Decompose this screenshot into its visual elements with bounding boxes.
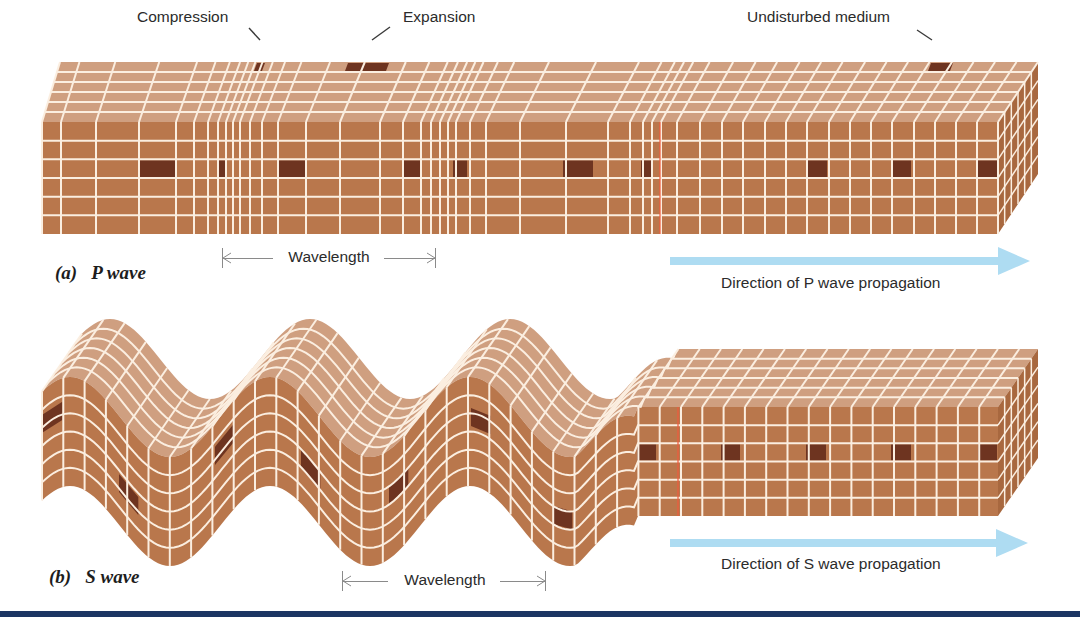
wavelength-right-line: [500, 581, 545, 582]
p-wavelength-marker: Wavelength: [222, 248, 436, 268]
wavelength-left-line: [343, 581, 388, 582]
s-wavelength-marker: Wavelength: [342, 571, 546, 591]
wavelength-right-line: [384, 258, 435, 259]
s-wave-block: [42, 319, 1038, 566]
p-wave-direction-label: Direction of P wave propagation: [721, 274, 940, 292]
p-wave-name: P wave: [91, 262, 146, 283]
callout-leader-lines: [249, 27, 932, 40]
wavelength-right-tick: [545, 571, 546, 591]
p-wave-panel-label: (a)P wave: [55, 262, 146, 284]
s-propagation-arrow-icon: [670, 529, 1028, 557]
p-propagation-arrow-icon: [670, 247, 1030, 275]
s-wave-tag: (b): [49, 566, 71, 587]
compression-label: Compression: [137, 8, 228, 26]
expansion-label: Expansion: [403, 8, 475, 26]
s-wavelength-label: Wavelength: [404, 571, 485, 589]
s-wave-panel-label: (b)S wave: [49, 566, 140, 588]
wavelength-left-line: [223, 258, 273, 259]
wavelength-right-tick: [435, 248, 436, 268]
p-wave-block: [42, 62, 1038, 234]
s-wave-name: S wave: [85, 566, 139, 587]
p-wave-tag: (a): [55, 262, 77, 283]
bottom-border-bar: [0, 611, 1080, 617]
p-wavelength-label: Wavelength: [288, 248, 369, 266]
s-wave-direction-label: Direction of S wave propagation: [721, 555, 941, 573]
seismic-wave-diagram: [0, 0, 1080, 617]
undisturbed-medium-label: Undisturbed medium: [747, 8, 890, 26]
